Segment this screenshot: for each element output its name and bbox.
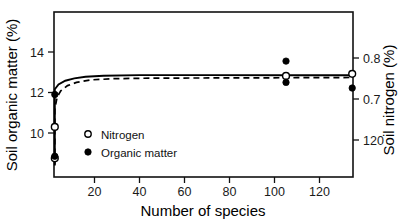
x-tick-label: 60 [178, 185, 192, 199]
chart-svg: 14 12 10 0.8 0.7 120 20 40 60 8 [0, 0, 406, 223]
x-axis-title: Number of species [140, 202, 265, 219]
legend-label-organic-matter: Organic matter [101, 147, 177, 159]
data-point-organic-matter [52, 153, 58, 159]
legend-filled-circle-icon [85, 149, 91, 155]
data-points-layer [51, 58, 355, 162]
x-tick-label: 20 [88, 185, 102, 199]
data-point-organic-matter [283, 58, 289, 64]
x-tick-label: 40 [133, 185, 147, 199]
legend-open-circle-icon [85, 131, 91, 137]
x-axis-tick-labels: 20 40 60 80 100 120 [88, 185, 330, 199]
y-axis-title: Soil organic matter (%) [3, 19, 20, 172]
data-point-nitrogen [349, 70, 356, 77]
x-tick-label: 120 [309, 185, 330, 199]
organic-matter-fit-curve [55, 75, 352, 165]
x-axis-ticks [95, 177, 320, 183]
data-point-organic-matter [52, 91, 58, 97]
x-tick-label: 80 [223, 185, 237, 199]
data-point-nitrogen [51, 124, 58, 131]
legend: Nitrogen Organic matter [85, 129, 177, 159]
y2-axis-title: Soil nitrogen (%) [380, 45, 397, 156]
x-tick-label: 100 [264, 185, 285, 199]
legend-label-nitrogen: Nitrogen [101, 129, 144, 141]
nitrogen-fit-curve [55, 78, 352, 165]
left-tick-label: 10 [30, 127, 44, 141]
figure-container: 14 12 10 0.8 0.7 120 20 40 60 8 [0, 0, 406, 223]
left-axis-tick-labels: 14 12 10 [30, 46, 44, 141]
left-tick-label: 12 [30, 86, 44, 100]
data-point-nitrogen [283, 72, 290, 79]
data-point-organic-matter [283, 79, 289, 85]
right-tick-label: 0.8 [363, 52, 380, 66]
data-point-organic-matter [349, 85, 355, 91]
plot-frame [54, 12, 353, 177]
left-tick-label: 14 [30, 46, 44, 60]
right-tick-label: 0.7 [363, 93, 380, 107]
